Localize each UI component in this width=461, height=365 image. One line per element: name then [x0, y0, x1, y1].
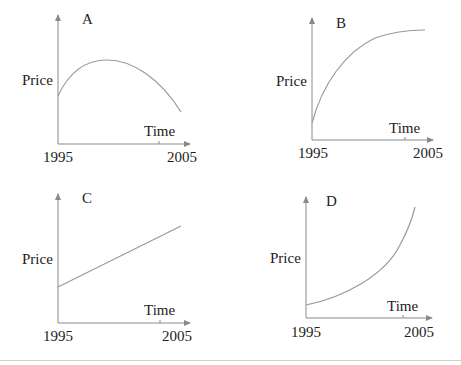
chart-d-ylabel: Price	[270, 251, 301, 266]
chart-d-xtick-start: 1995	[291, 325, 321, 340]
chart-a-ylabel: Price	[22, 73, 53, 88]
chart-b-curve	[312, 30, 425, 123]
chart-a-curve	[58, 60, 181, 112]
chart-b-xlabel: Time	[389, 121, 420, 136]
chart-d-xlabel: Time	[387, 299, 418, 314]
bottom-divider	[0, 360, 461, 361]
chart-c-xlabel: Time	[144, 303, 175, 318]
chart-a-xtick-end: 2005	[167, 150, 197, 165]
chart-c-ylabel: Price	[22, 252, 53, 267]
chart-c-title: C	[82, 191, 92, 206]
chart-c-line	[58, 226, 181, 287]
chart-d-xtick-end: 2005	[404, 325, 434, 340]
chart-c-xtick-start: 1995	[43, 329, 73, 344]
chart-a-title: A	[82, 12, 93, 27]
chart-a-xtick-start: 1995	[43, 150, 73, 165]
chart-d-curve	[306, 207, 415, 305]
chart-b-ylabel: Price	[276, 74, 307, 89]
chart-b-xtick-start: 1995	[298, 146, 328, 161]
chart-c-xtick-end: 2005	[162, 329, 192, 344]
chart-d-title: D	[326, 194, 337, 209]
chart-a-xlabel: Time	[144, 124, 175, 139]
chart-b-title: B	[336, 16, 346, 31]
chart-b-xtick-end: 2005	[413, 146, 443, 161]
